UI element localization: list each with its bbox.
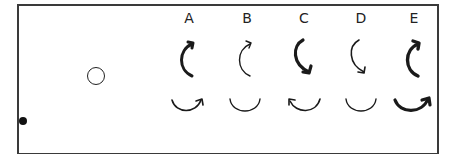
horizontal-arrow-e-icon: [395, 98, 430, 110]
vertical-arrow-d-icon: [351, 40, 365, 73]
vertical-arrow-c-icon: [295, 40, 311, 73]
vertical-arrow-b-icon: [240, 41, 252, 76]
vertical-arrow-a-icon: [182, 42, 194, 76]
horizontal-arc-b-icon: [230, 99, 260, 111]
horizontal-arrow-a-icon: [172, 99, 203, 111]
rotation-arrows: [0, 0, 456, 156]
vertical-arrow-e-icon: [408, 41, 420, 76]
horizontal-arc-d-icon: [346, 99, 376, 111]
horizontal-arrow-c-icon: [289, 99, 320, 111]
